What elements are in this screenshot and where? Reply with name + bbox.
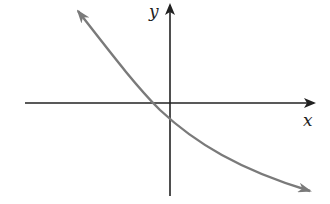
x-axis-label: x [303, 110, 313, 130]
y-axis-label: y [148, 1, 159, 21]
function-curve [78, 11, 310, 191]
graph: y x [0, 0, 330, 204]
